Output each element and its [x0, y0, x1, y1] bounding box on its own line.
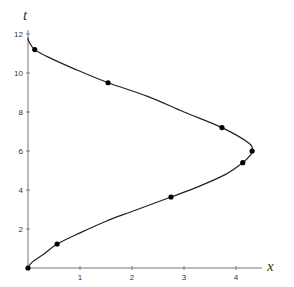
x-tick-label: 4 [234, 273, 239, 282]
y-axis-label: t [23, 7, 28, 23]
y-tick-label: 4 [19, 186, 24, 195]
data-point [168, 194, 173, 199]
x-tick-label: 2 [130, 273, 135, 282]
y-tick-label: 2 [19, 225, 24, 234]
data-point [240, 160, 245, 165]
axes [28, 30, 262, 268]
x-tick-label: 1 [78, 273, 83, 282]
data-point [250, 148, 255, 153]
data-point [25, 265, 30, 270]
data-point [105, 80, 110, 85]
data-point [32, 47, 37, 52]
y-tick-label: 6 [19, 147, 24, 156]
y-tick-label: 8 [19, 108, 24, 117]
y-tick-label: 12 [14, 30, 23, 39]
data-point [219, 125, 224, 130]
x-tick-label: 3 [182, 273, 187, 282]
sample-points [25, 47, 254, 271]
x-axis-label: x [266, 258, 274, 274]
chart: 1234 24681012 x t [0, 0, 294, 287]
y-tick-label: 10 [14, 69, 23, 78]
trajectory-curve [28, 38, 252, 268]
data-point [55, 241, 60, 246]
